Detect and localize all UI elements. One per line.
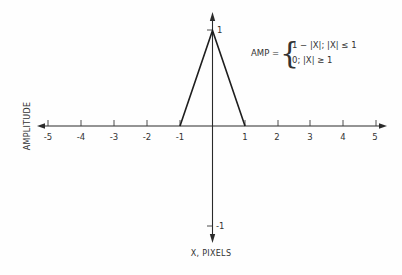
chart-canvas: -5 -4 -3 -2 -1 1 2 3 4 5 1 -1 X, PIXELS … [0,0,402,275]
triangle-function-chart: -5 -4 -3 -2 -1 1 2 3 4 5 1 -1 X, PIXELS … [0,0,402,275]
y-axis-title: AMPLITUDE [23,102,32,151]
formula-lhs: AMP = [251,48,279,58]
x-tick-label: -2 [143,132,151,142]
y-axis-down-arrow-icon [210,234,215,243]
x-tick-label: 1 [242,132,247,142]
formula-case-2: 0; |X| ≥ 1 [292,55,332,65]
formula-annotation: AMP = { 1 − |X|; |X| ≤ 1 0; |X| ≥ 1 [251,35,357,70]
x-tick-label: 2 [274,132,279,142]
x-axis-left-arrow-icon [37,123,45,128]
y-axis-up-arrow-icon [210,12,215,21]
x-tick-labels: -5 -4 -3 -2 -1 1 2 3 4 5 [44,132,378,142]
x-tick-label: -5 [44,132,52,142]
x-tick-label: -1 [176,132,184,142]
x-tick-label: 3 [307,132,312,142]
y-tick-label-1: 1 [217,25,222,35]
x-axis-title: X, PIXELS [191,249,232,258]
x-axis-right-arrow-icon [379,123,387,128]
x-tick-label: 5 [372,132,377,142]
formula-case-1: 1 − |X|; |X| ≤ 1 [292,40,357,50]
x-tick-label: 4 [340,132,345,142]
x-tick-label: -3 [110,132,118,142]
y-tick-label-minus-1: -1 [216,221,224,231]
x-tick-label: -4 [77,132,85,142]
